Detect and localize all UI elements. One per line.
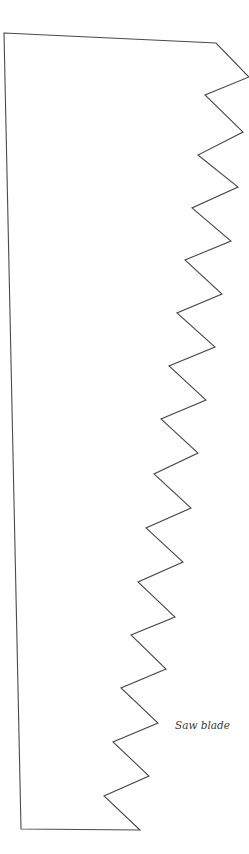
- saw-blade-label: Saw blade: [175, 719, 230, 731]
- saw-blade-outline: [4, 33, 249, 830]
